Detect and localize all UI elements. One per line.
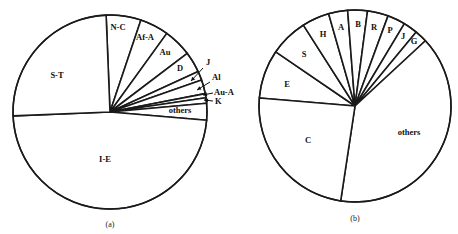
slice-label: D	[177, 63, 183, 73]
chart-caption: (a)	[106, 220, 115, 229]
pie-chart-figure: N-CAf-AAuDJAlAu-AKothersI-ES-T(a) ESHABR…	[0, 0, 458, 234]
slice-label: Au	[160, 47, 171, 57]
pie-slice-c	[259, 98, 355, 201]
slice-label: K	[215, 96, 222, 106]
slice-label: B	[355, 19, 361, 29]
slice-label: others	[398, 127, 421, 137]
chart-caption: (b)	[350, 214, 360, 223]
pie-chart-a: N-CAf-AAuDJAlAu-AKothersI-ES-T(a)	[13, 15, 235, 229]
slice-label: J	[206, 57, 211, 67]
slice-label: others	[169, 105, 192, 115]
slice-label: G	[411, 36, 418, 46]
slice-label: Al	[212, 72, 221, 82]
slice-label: C	[305, 135, 311, 145]
slice-label: R	[371, 22, 378, 32]
slice-label: Af-A	[136, 32, 155, 42]
pie-chart-b: ESHABRPJGothersC(b)	[259, 10, 451, 223]
figure-canvas: N-CAf-AAuDJAlAu-AKothersI-ES-T(a) ESHABR…	[0, 0, 458, 234]
pie-slice-s-t	[13, 15, 110, 116]
slice-label: S	[302, 49, 307, 59]
slice-label: P	[387, 25, 392, 35]
slice-label: S-T	[50, 70, 64, 80]
slice-label: A	[338, 22, 345, 32]
slices	[259, 10, 451, 202]
slice-label: N-C	[110, 22, 125, 32]
slice-label: I-E	[99, 154, 111, 164]
slice-label: H	[320, 29, 327, 39]
slice-label: E	[284, 79, 290, 89]
